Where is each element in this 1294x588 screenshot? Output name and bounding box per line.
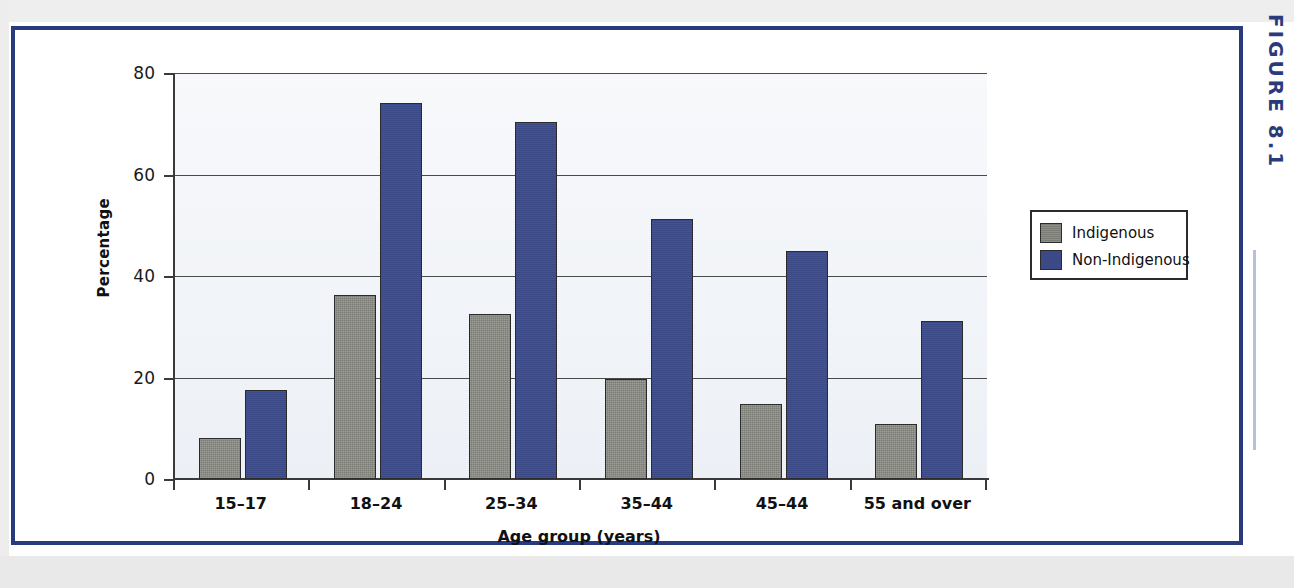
y-tick-label: 60 <box>115 165 155 185</box>
y-tick-label: 40 <box>115 266 155 286</box>
page-margin-left <box>0 0 9 588</box>
x-tick-mark <box>173 479 175 490</box>
y-tick-mark <box>164 73 173 75</box>
x-axis-title: Age group (years) <box>173 527 985 546</box>
y-tick-mark <box>164 276 173 278</box>
bar-non-indigenous <box>921 321 963 479</box>
gridline <box>175 378 987 379</box>
page-margin-bottom <box>0 556 1294 588</box>
page-margin-top <box>0 0 1294 22</box>
legend-item-indigenous[interactable]: Indigenous <box>1040 219 1178 246</box>
x-tick-mark <box>714 479 716 490</box>
x-tick-label: 15–17 <box>214 494 267 513</box>
x-tick-label: 45–44 <box>756 494 809 513</box>
x-tick-mark <box>308 479 310 490</box>
bar-indigenous <box>199 438 241 479</box>
legend-swatch-non-indigenous <box>1040 250 1062 270</box>
x-axis-line <box>173 478 989 480</box>
y-tick-mark <box>164 175 173 177</box>
x-tick-mark <box>985 479 987 490</box>
bar-non-indigenous <box>380 103 422 479</box>
bar-non-indigenous <box>245 390 287 479</box>
x-tick-mark <box>444 479 446 490</box>
chart-legend: Indigenous Non-Indigenous <box>1030 210 1188 280</box>
bar-indigenous <box>875 424 917 479</box>
y-tick-mark <box>164 378 173 380</box>
x-tick-label: 18–24 <box>350 494 403 513</box>
bar-indigenous <box>469 314 511 479</box>
gridline <box>175 276 987 277</box>
bar-indigenous <box>740 404 782 479</box>
bar-non-indigenous <box>786 251 828 479</box>
legend-label-indigenous: Indigenous <box>1072 224 1154 242</box>
bar-indigenous <box>334 295 376 479</box>
legend-label-non-indigenous: Non-Indigenous <box>1072 251 1190 269</box>
y-tick-mark <box>164 479 173 481</box>
x-tick-label: 25–34 <box>485 494 538 513</box>
y-tick-label: 20 <box>115 368 155 388</box>
gridline <box>175 73 987 74</box>
gridline <box>175 175 987 176</box>
figure-page: FIGURE 8.1 Percentage 02040608015–1718–2… <box>0 0 1294 588</box>
figure-side-rule <box>1253 250 1256 450</box>
x-tick-label: 55 and over <box>864 494 971 513</box>
y-tick-label: 0 <box>115 469 155 489</box>
bar-non-indigenous <box>651 219 693 479</box>
figure-number-label: FIGURE 8.1 <box>1248 8 1288 248</box>
bar-indigenous <box>605 379 647 479</box>
x-tick-mark <box>579 479 581 490</box>
chart-plot-area <box>173 73 987 479</box>
x-tick-mark <box>850 479 852 490</box>
legend-item-non-indigenous[interactable]: Non-Indigenous <box>1040 246 1178 273</box>
bar-non-indigenous <box>515 122 557 479</box>
y-axis-title-text: Percentage <box>95 198 113 298</box>
x-tick-label: 35–44 <box>620 494 673 513</box>
y-tick-label: 80 <box>115 63 155 83</box>
legend-swatch-indigenous <box>1040 223 1062 243</box>
